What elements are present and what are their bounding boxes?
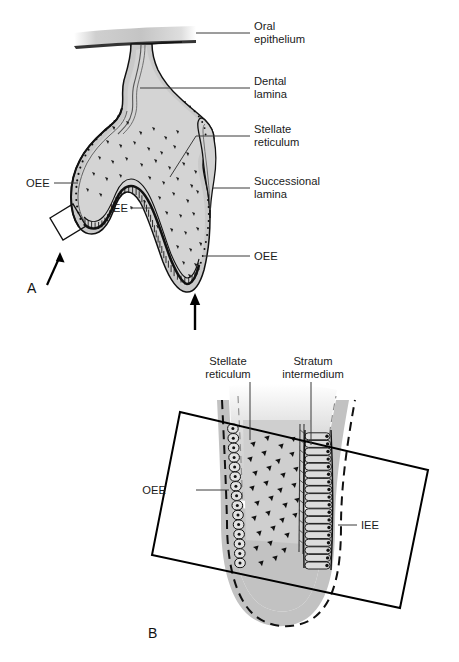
panel-letter-b: B [148,625,157,641]
label-stratum-intermedium-line1: Stratum [293,355,332,367]
label-iee-b: IEE [361,519,379,531]
label-stratum-intermedium-line2: intermedium [282,368,344,380]
anatomical-figure: Oral epithelium Dental lamina Stellate r… [0,0,459,662]
panel-letter-a: A [27,280,37,296]
label-oee-b: OEE [142,484,166,496]
label-oee-right-a: OEE [254,250,278,262]
label-oee-left-a: OEE [26,177,50,189]
figure-root: Oral epithelium Dental lamina Stellate r… [0,0,459,662]
panel-a: Oral epithelium Dental lamina Stellate r… [26,20,320,330]
enamel-organ-body [71,44,214,292]
up-arrow-icon-bottom [190,293,200,330]
label-dental-lamina-line2: lamina [254,88,288,100]
panel-b: Stellate reticulum Stratum intermedium O… [142,355,428,641]
label-successional-lamina-line2: lamina [254,188,288,200]
label-dental-lamina-line1: Dental [254,75,286,87]
up-arrow-icon-left [47,252,65,285]
inner-enamel-epithelium-cells-b [304,430,333,570]
label-stellate-reticulum-a-line2: reticulum [254,136,299,148]
label-oral-epithelium-line1: Oral [254,20,275,32]
stellate-reticulum-fill-b [243,420,311,544]
label-iee-a: IEE [110,202,128,214]
label-oral-epithelium-line2: epithelium [254,33,305,45]
label-stellate-reticulum-a-line1: Stellate [254,123,291,135]
label-stellate-reticulum-b-line1: Stellate [209,355,246,367]
label-stellate-reticulum-b-line2: reticulum [205,368,250,380]
label-successional-lamina-line1: Successional [254,175,320,187]
